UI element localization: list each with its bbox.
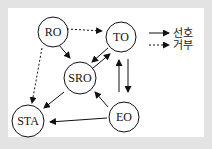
node-label: TO: [113, 30, 129, 44]
edge-ro-sro: [59, 45, 70, 58]
relationship-diagram: RO TO SRO STA EO 선호 거부: [0, 0, 212, 149]
legend: 선호 거부: [149, 27, 193, 52]
legend-label-rejection: 거부: [173, 39, 193, 52]
node-sta: STA: [12, 105, 44, 137]
node-label: SRO: [68, 71, 92, 85]
edge-sro-to: [93, 54, 110, 68]
node-label: STA: [17, 114, 39, 128]
edge-sro-sta: [44, 92, 64, 108]
edge-to-sro: [92, 48, 108, 62]
node-to: TO: [106, 22, 136, 52]
node-label: EO: [116, 110, 132, 124]
edge-ro-sta: [32, 48, 42, 103]
node-ro: RO: [38, 17, 68, 47]
edge-eo-sta: [50, 118, 107, 122]
edge-eo-sro: [95, 92, 108, 107]
edge-ro-to: [67, 29, 102, 31]
node-label: RO: [45, 25, 62, 39]
node-sro: SRO: [64, 62, 96, 94]
node-eo: EO: [109, 102, 139, 132]
legend-item-dashed: 거부: [149, 39, 193, 52]
